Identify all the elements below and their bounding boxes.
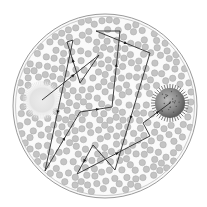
diagram-canvas [0,0,207,207]
diffusion-diagram [0,0,207,207]
